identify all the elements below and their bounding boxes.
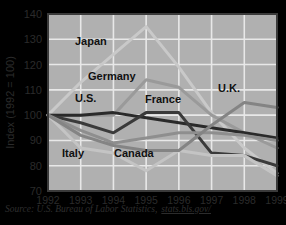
series-label-italy: Italy bbox=[62, 147, 85, 159]
y-tick-label: 80 bbox=[30, 160, 42, 172]
series-label-uk: U.K. bbox=[218, 82, 240, 94]
series-label-japan: Japan bbox=[75, 35, 107, 47]
source-note: Source: U.S. Bureau of Labor Statistics, bbox=[5, 204, 157, 214]
y-tick-label: 120 bbox=[24, 59, 42, 71]
y-tick-label: 90 bbox=[30, 134, 42, 146]
y-tick-label: 140 bbox=[24, 8, 42, 20]
series-label-us: U.S. bbox=[75, 92, 96, 104]
source-link[interactable]: stats.bls.gov/ bbox=[161, 204, 212, 214]
series-label-germany: Germany bbox=[88, 70, 137, 82]
line-chart: 708090100110120130140 199219931994199519… bbox=[0, 0, 286, 225]
y-tick-label: 100 bbox=[24, 109, 42, 121]
y-tick-label: 110 bbox=[24, 84, 42, 96]
series-label-france: France bbox=[145, 93, 181, 105]
series-label-canada: Canada bbox=[114, 147, 155, 159]
x-tick-label: 1998 bbox=[233, 194, 257, 206]
x-tick-label: 1999 bbox=[265, 194, 286, 206]
y-tick-label: 130 bbox=[24, 33, 42, 45]
chart-figure: 708090100110120130140 199219931994199519… bbox=[0, 0, 286, 225]
y-axis-label: Index (1992 = 100) bbox=[4, 56, 16, 149]
